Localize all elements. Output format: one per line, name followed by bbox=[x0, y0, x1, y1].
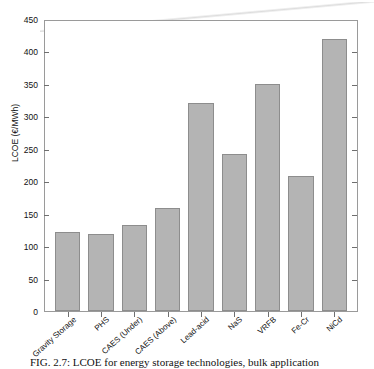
bar[interactable] bbox=[88, 234, 113, 311]
bar-slot bbox=[218, 21, 251, 311]
bar-slot bbox=[84, 21, 117, 311]
y-axis-tick-label: 0 bbox=[0, 308, 44, 317]
y-axis-tick-mark bbox=[352, 117, 357, 118]
bar[interactable] bbox=[288, 176, 313, 311]
bar-slot bbox=[284, 21, 317, 311]
y-axis-tick-mark bbox=[352, 247, 357, 248]
y-axis-tick-mark bbox=[352, 150, 357, 151]
x-axis-tick-label: Gravity Storage bbox=[30, 315, 77, 359]
y-axis-tick-mark bbox=[352, 215, 357, 216]
bar-slot bbox=[118, 21, 151, 311]
y-axis-tick-label: 300 bbox=[0, 113, 44, 122]
x-axis-tick-label: NiCd bbox=[325, 315, 344, 334]
y-axis-tick-label: 250 bbox=[0, 146, 44, 155]
bar-slot bbox=[51, 21, 84, 311]
y-axis-tick-mark bbox=[44, 215, 49, 216]
bar[interactable] bbox=[55, 232, 80, 311]
bar[interactable] bbox=[322, 39, 347, 311]
y-axis-tick-label: 200 bbox=[0, 178, 44, 187]
y-axis-tick-mark bbox=[352, 280, 357, 281]
y-axis-tick-mark bbox=[44, 117, 49, 118]
y-axis-tick-mark bbox=[44, 52, 49, 53]
bar-slot bbox=[318, 21, 351, 311]
figure-caption: FIG. 2.7: LCOE for energy storage techno… bbox=[30, 356, 374, 368]
y-axis-tick-label: 350 bbox=[0, 81, 44, 90]
x-axis-tick-label: Fe-Cr bbox=[290, 315, 311, 335]
y-axis-tick-mark bbox=[44, 150, 49, 151]
y-axis-tick-label: 150 bbox=[0, 210, 44, 219]
y-axis-tick-mark bbox=[44, 247, 49, 248]
y-axis-tick-mark bbox=[352, 52, 357, 53]
x-axis-tick-mark bbox=[268, 312, 269, 317]
y-axis-tick-mark bbox=[352, 85, 357, 86]
x-axis-tick-label: Lead-acid bbox=[179, 315, 211, 345]
y-axis-tick-label: 450 bbox=[0, 16, 44, 25]
x-axis-tick-label: VRFB bbox=[256, 315, 278, 336]
bar[interactable] bbox=[122, 225, 147, 311]
plot-area bbox=[44, 20, 358, 312]
y-axis-tick-mark bbox=[44, 182, 49, 183]
bar[interactable] bbox=[188, 103, 213, 311]
y-axis-tick-label: 400 bbox=[0, 48, 44, 57]
y-axis-tick-mark bbox=[44, 280, 49, 281]
figure: LCOE (€/MWh) FIG. 2.7: LCOE for energy s… bbox=[0, 0, 374, 369]
bar-slot bbox=[251, 21, 284, 311]
bar[interactable] bbox=[255, 84, 280, 311]
x-axis-tick-label: PHS bbox=[93, 315, 111, 333]
y-axis-tick-label: 50 bbox=[0, 275, 44, 284]
y-axis-tick-label: 100 bbox=[0, 243, 44, 252]
x-axis-tick-mark bbox=[68, 312, 69, 317]
y-axis-tick-mark bbox=[44, 85, 49, 86]
x-axis-tick-label: NaS bbox=[227, 315, 245, 332]
bar-series bbox=[45, 21, 357, 311]
x-axis-tick-mark bbox=[168, 312, 169, 317]
bar-slot bbox=[184, 21, 217, 311]
y-axis-tick-mark bbox=[352, 182, 357, 183]
bar[interactable] bbox=[222, 154, 247, 311]
bar-slot bbox=[151, 21, 184, 311]
bar[interactable] bbox=[155, 208, 180, 311]
